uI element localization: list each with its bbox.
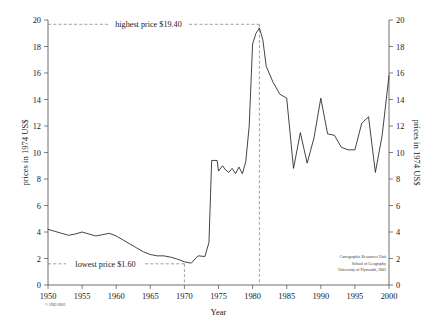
- x-tick-label: 1955: [74, 292, 91, 301]
- x-tick-label: 1975: [210, 292, 227, 301]
- y-axis-title-right: prices in 1974 US$: [412, 119, 422, 186]
- x-tick-label: 1985: [278, 292, 295, 301]
- x-tick-label: 2000: [381, 292, 398, 301]
- y-tick-label: 16: [33, 69, 41, 78]
- y-tick-label: 0: [37, 281, 41, 290]
- y-tick-label: 18: [33, 43, 41, 52]
- y-tick-label-right: 20: [396, 16, 404, 25]
- y-tick-label-right: 10: [396, 149, 404, 158]
- y-axis-title-left: prices in 1974 US$: [20, 119, 30, 186]
- x-tick-label: 1995: [347, 292, 364, 301]
- copyright-notice: © 1963-2003: [45, 302, 65, 307]
- highest-price-annotation: highest price $19.40: [115, 20, 182, 29]
- x-tick-label: 1970: [176, 292, 193, 301]
- y-tick-label-right: 16: [396, 69, 404, 78]
- x-tick-label: 1965: [142, 292, 159, 301]
- lowest-price-annotation: lowest price $1.60: [75, 260, 135, 269]
- x-axis-title: Year: [211, 307, 227, 317]
- y-tick-label: 2: [37, 255, 41, 264]
- y-tick-label: 6: [37, 202, 41, 211]
- y-tick-label: 12: [33, 122, 41, 131]
- x-tick-label: 1980: [244, 292, 261, 301]
- oil-price-line-chart: 0 2 4 6 8 10 12 14 16 18 20: [0, 0, 443, 328]
- credit-line-1: Cartographic Resources Unit: [340, 254, 387, 259]
- y-tick-label: 10: [33, 149, 41, 158]
- y-tick-label-right: 8: [396, 175, 400, 184]
- x-tick-label: 1960: [108, 292, 125, 301]
- y-tick-label-right: 14: [396, 96, 405, 105]
- y-tick-label: 20: [33, 16, 41, 25]
- y-tick-label-right: 0: [396, 281, 400, 290]
- chart-figure: 0 2 4 6 8 10 12 14 16 18 20: [0, 0, 443, 328]
- x-tick-label: 1950: [40, 292, 57, 301]
- x-tick-label: 1990: [312, 292, 329, 301]
- credit-line-2: School of Geography: [352, 261, 386, 266]
- y-tick-label-right: 12: [396, 122, 404, 131]
- y-tick-label: 14: [33, 96, 42, 105]
- y-tick-label-right: 2: [396, 255, 400, 264]
- y-tick-label: 8: [37, 175, 41, 184]
- y-tick-label-right: 18: [396, 43, 404, 52]
- y-tick-label-right: 6: [396, 202, 400, 211]
